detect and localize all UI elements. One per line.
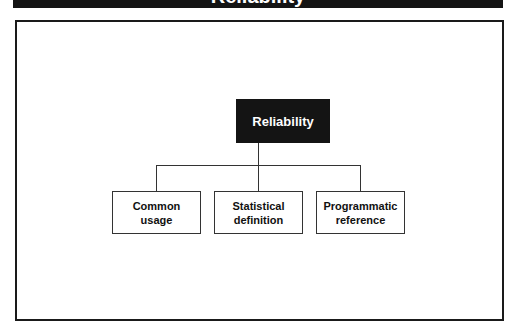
header-band: Reliability <box>13 0 503 8</box>
connector-root-vertical <box>258 143 259 165</box>
child-node-common-usage: Common usage <box>112 191 201 234</box>
child-node-statistical-definition: Statistical definition <box>214 191 303 234</box>
child-node-label: Statistical definition <box>219 199 298 227</box>
header-title: Reliability <box>13 0 503 6</box>
root-node-label: Reliability <box>252 114 313 129</box>
child-node-programmatic-reference: Programmatic reference <box>316 191 405 234</box>
connector-child-3 <box>360 165 361 191</box>
child-node-label: Programmatic reference <box>321 199 400 227</box>
connector-child-1 <box>156 165 157 191</box>
diagram-frame <box>15 20 504 321</box>
root-node: Reliability <box>236 99 330 143</box>
child-node-label: Common usage <box>117 199 196 227</box>
connector-child-2 <box>258 165 259 191</box>
